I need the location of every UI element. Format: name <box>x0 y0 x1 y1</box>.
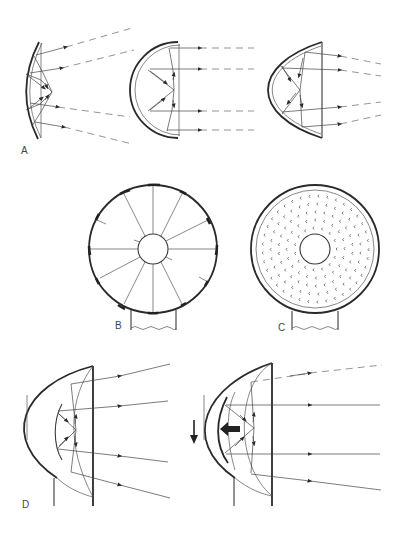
housing-reflector-d1 <box>24 364 170 506</box>
panel-d: D <box>22 363 382 510</box>
down-arrow-icon <box>190 435 198 444</box>
parabolic-reflector <box>268 42 381 138</box>
perforation-pattern <box>262 195 369 304</box>
label-d: D <box>22 499 29 510</box>
move-back-arrow-icon <box>220 422 240 436</box>
housing-reflector-d2 <box>190 363 382 506</box>
segmented-dish <box>89 185 217 313</box>
label-b: B <box>115 320 122 331</box>
panel-c: C <box>251 185 379 333</box>
label-c: C <box>278 322 285 333</box>
hemispherical-reflector <box>130 42 254 138</box>
shallow-dish-reflector <box>26 28 134 144</box>
panel-a: A <box>21 28 381 156</box>
panel-b: B <box>89 185 217 331</box>
perforated-dish <box>251 185 379 313</box>
reflector-diagram: A <box>0 0 404 543</box>
label-a: A <box>21 145 28 156</box>
